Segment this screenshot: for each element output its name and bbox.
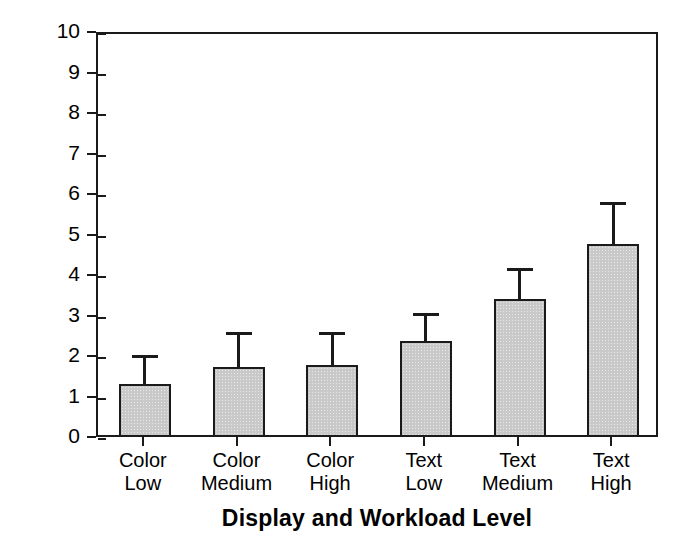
x-tick-label: ColorHigh <box>283 449 377 495</box>
y-tick-mark-inner <box>98 357 106 359</box>
y-tick-mark <box>87 31 96 33</box>
y-tick-mark-inner <box>98 33 106 35</box>
y-tick-label: 4 <box>30 263 80 284</box>
bar <box>587 244 639 437</box>
y-tick-mark-inner <box>98 74 106 76</box>
y-tick-mark <box>87 153 96 155</box>
chart-figure: Workload Rating 012345678910 ColorLowCol… <box>0 0 682 547</box>
y-tick-mark-inner <box>98 195 106 197</box>
y-tick-mark <box>87 436 96 438</box>
bar <box>213 367 265 437</box>
x-tick-label-line2: Low <box>96 472 190 495</box>
x-tick-label-line1: Color <box>306 449 354 471</box>
x-tick-label: TextHigh <box>564 449 658 495</box>
bar <box>400 341 452 437</box>
x-tick-label-line2: Medium <box>190 472 284 495</box>
x-tick-label: TextLow <box>377 449 471 495</box>
bar <box>306 365 358 437</box>
x-tick-label-line2: High <box>283 472 377 495</box>
bar <box>119 384 171 437</box>
y-tick-mark <box>87 315 96 317</box>
y-tick-label: 5 <box>30 223 80 244</box>
x-tick-mark <box>142 437 144 446</box>
error-bar-stem <box>612 202 615 244</box>
y-tick-label: 2 <box>30 344 80 365</box>
x-tick-label: ColorMedium <box>190 449 284 495</box>
y-tick-mark <box>87 355 96 357</box>
plot-area <box>96 32 658 437</box>
y-tick-mark-inner <box>98 317 106 319</box>
y-tick-mark <box>87 234 96 236</box>
x-tick-label: TextMedium <box>471 449 565 495</box>
error-bar-stem <box>518 268 521 299</box>
error-bar-cap <box>600 202 626 205</box>
y-tick-label: 3 <box>30 304 80 325</box>
x-tick-label-line1: Text <box>405 449 442 471</box>
x-tick-label-line2: Low <box>377 472 471 495</box>
x-tick-mark <box>423 437 425 446</box>
y-tick-label: 6 <box>30 182 80 203</box>
y-tick-mark-inner <box>98 398 106 400</box>
y-tick-mark-inner <box>98 236 106 238</box>
y-tick-label: 10 <box>30 20 80 41</box>
x-tick-label-line1: Text <box>593 449 630 471</box>
error-bar-stem <box>331 332 334 364</box>
error-bar-stem <box>424 313 427 341</box>
bar <box>494 299 546 437</box>
y-tick-mark-inner <box>98 114 106 116</box>
y-tick-mark-inner <box>98 155 106 157</box>
y-tick-mark-inner <box>98 438 106 440</box>
y-tick-label: 1 <box>30 385 80 406</box>
x-tick-mark <box>517 437 519 446</box>
y-tick-label: 9 <box>30 61 80 82</box>
x-tick-label-line1: Color <box>213 449 261 471</box>
y-tick-mark <box>87 72 96 74</box>
y-tick-mark <box>87 274 96 276</box>
error-bar-cap <box>413 313 439 316</box>
error-bar-stem <box>143 355 146 384</box>
x-tick-mark <box>610 437 612 446</box>
x-tick-label: ColorLow <box>96 449 190 495</box>
y-tick-label: 7 <box>30 142 80 163</box>
x-tick-label-line1: Text <box>499 449 536 471</box>
x-tick-label-line2: Medium <box>471 472 565 495</box>
error-bar-cap <box>132 355 158 358</box>
y-tick-mark <box>87 396 96 398</box>
error-bar-cap <box>319 332 345 335</box>
x-axis-title: Display and Workload Level <box>96 505 658 532</box>
y-tick-mark <box>87 112 96 114</box>
error-bar-stem <box>237 332 240 367</box>
y-tick-label: 0 <box>30 425 80 446</box>
y-tick-mark <box>87 193 96 195</box>
error-bar-cap <box>226 332 252 335</box>
x-tick-mark <box>329 437 331 446</box>
x-tick-label-line1: Color <box>119 449 167 471</box>
y-tick-label: 8 <box>30 101 80 122</box>
y-tick-mark-inner <box>98 276 106 278</box>
x-tick-label-line2: High <box>564 472 658 495</box>
x-tick-mark <box>236 437 238 446</box>
error-bar-cap <box>507 268 533 271</box>
